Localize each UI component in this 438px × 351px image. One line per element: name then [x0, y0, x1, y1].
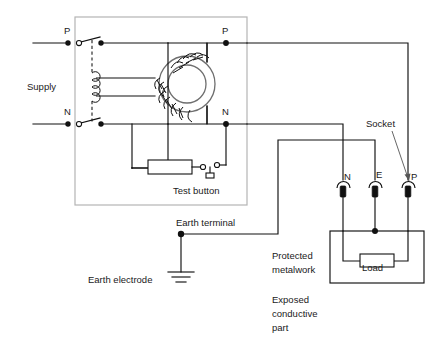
test-button-contact-left — [200, 164, 205, 169]
load-lead-left — [343, 231, 360, 261]
exposed-part-label-line1: Exposed — [272, 294, 309, 305]
socket-n-feed-wire — [247, 124, 343, 180]
socket-label: Socket — [366, 118, 395, 129]
exposed-part-label-line2: conductive — [272, 308, 317, 319]
socket-terminal-e[interactable] — [369, 182, 382, 197]
transformer-core-inner — [168, 65, 206, 103]
socket-p-label: P — [411, 171, 417, 182]
supply-p-terminal-node — [65, 40, 70, 45]
load-lead-right — [394, 231, 408, 261]
load-label: Load — [362, 262, 383, 273]
exposed-part-label-line3: part — [272, 322, 289, 333]
switch-n-contact-left — [76, 121, 81, 126]
socket-p-feed-wire — [247, 43, 408, 180]
output-n-label: N — [222, 106, 229, 117]
socket-terminal-n[interactable] — [337, 182, 350, 197]
test-button-plunger[interactable] — [206, 167, 214, 178]
supply-p-label: P — [64, 25, 70, 36]
socket-e-label: E — [376, 169, 382, 180]
output-p-label: P — [222, 25, 228, 36]
switch-p-contact-left — [76, 40, 81, 45]
diagram-page: Supply P N P N Test button Earth termina… — [0, 0, 438, 351]
supply-n-label: N — [64, 106, 71, 117]
test-button-contact-right — [214, 162, 219, 167]
switch-p-blade[interactable] — [82, 37, 101, 42]
protected-metalwork-label-line2: metalwork — [272, 264, 316, 275]
output-p-node — [223, 40, 229, 46]
trip-coil — [92, 72, 100, 103]
supply-n-terminal-node — [65, 121, 70, 126]
supply-label: Supply — [27, 81, 56, 92]
socket-n-label: N — [344, 171, 351, 182]
earth-terminal-label: Earth terminal — [176, 217, 235, 228]
socket-terminal-p[interactable] — [402, 182, 415, 197]
test-resistor — [148, 160, 192, 174]
earth-electrode-symbol — [168, 272, 194, 282]
output-p-wire-segment — [207, 43, 247, 62]
protected-metalwork-label-line1: Protected — [272, 250, 313, 261]
test-button-label: Test button — [173, 185, 219, 196]
socket-pointer-line — [392, 131, 409, 181]
switch-n-blade[interactable] — [82, 118, 101, 123]
earth-electrode-label: Earth electrode — [88, 274, 152, 285]
rcd-circuit-diagram: Supply P N P N Test button Earth termina… — [0, 0, 438, 351]
